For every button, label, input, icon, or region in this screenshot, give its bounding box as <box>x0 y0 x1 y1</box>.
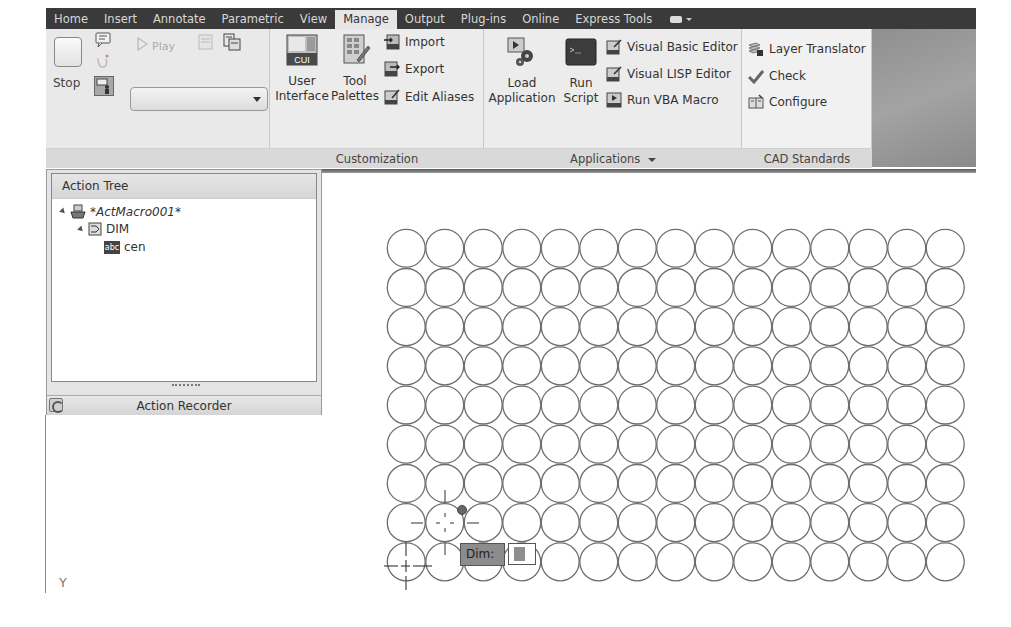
circle-entity[interactable] <box>811 425 849 463</box>
circle-entity[interactable] <box>926 465 964 503</box>
circle-entity[interactable] <box>772 425 810 463</box>
circle-entity[interactable] <box>503 347 541 385</box>
circle-entity[interactable] <box>695 269 733 307</box>
circle-entity[interactable] <box>926 229 964 267</box>
circle-entity[interactable] <box>618 543 656 581</box>
circle-entity[interactable] <box>580 543 618 581</box>
circle-entity[interactable] <box>580 386 618 424</box>
circle-entity[interactable] <box>849 347 887 385</box>
circle-entity[interactable] <box>541 386 579 424</box>
circle-entity[interactable] <box>426 425 464 463</box>
circle-entity[interactable] <box>811 386 849 424</box>
circle-entity[interactable] <box>541 425 579 463</box>
circle-entity[interactable] <box>926 386 964 424</box>
circle-entity[interactable] <box>541 347 579 385</box>
circle-entity[interactable] <box>695 465 733 503</box>
circle-entity[interactable] <box>772 229 810 267</box>
circle-entity[interactable] <box>541 504 579 542</box>
circle-entity[interactable] <box>695 308 733 346</box>
circle-entity[interactable] <box>464 347 502 385</box>
circle-entity[interactable] <box>657 425 695 463</box>
circle-entity[interactable] <box>618 465 656 503</box>
circle-entity[interactable] <box>541 465 579 503</box>
circle-entity[interactable] <box>695 229 733 267</box>
circle-entity[interactable] <box>657 308 695 346</box>
circle-entity[interactable] <box>618 386 656 424</box>
circle-entity[interactable] <box>387 347 425 385</box>
circle-entity[interactable] <box>849 269 887 307</box>
circle-entity[interactable] <box>849 465 887 503</box>
circle-entity[interactable] <box>811 347 849 385</box>
circle-entity[interactable] <box>849 504 887 542</box>
circle-entity[interactable] <box>464 229 502 267</box>
circle-entity[interactable] <box>657 386 695 424</box>
circle-entity[interactable] <box>426 386 464 424</box>
circle-entity[interactable] <box>503 504 541 542</box>
circle-entity[interactable] <box>426 229 464 267</box>
circle-entity[interactable] <box>503 386 541 424</box>
circle-entity[interactable] <box>849 543 887 581</box>
circle-entity[interactable] <box>541 269 579 307</box>
circle-entity[interactable] <box>695 347 733 385</box>
circle-entity[interactable] <box>772 543 810 581</box>
circle-entity[interactable] <box>503 269 541 307</box>
circle-entity[interactable] <box>926 504 964 542</box>
circle-entity[interactable] <box>387 465 425 503</box>
circle-entity[interactable] <box>618 425 656 463</box>
circle-entity[interactable] <box>464 269 502 307</box>
circle-entity[interactable] <box>888 269 926 307</box>
circle-entity[interactable] <box>387 425 425 463</box>
circle-entity[interactable] <box>772 347 810 385</box>
circle-entity[interactable] <box>464 465 502 503</box>
circle-entity[interactable] <box>772 465 810 503</box>
circle-entity[interactable] <box>695 504 733 542</box>
circle-entity[interactable] <box>926 425 964 463</box>
circle-entity[interactable] <box>695 386 733 424</box>
circle-entity[interactable] <box>657 269 695 307</box>
circle-entity[interactable] <box>849 386 887 424</box>
circle-entity[interactable] <box>695 543 733 581</box>
circle-entity[interactable] <box>657 465 695 503</box>
circle-entity[interactable] <box>618 347 656 385</box>
circle-entity[interactable] <box>618 308 656 346</box>
circle-entity[interactable] <box>464 386 502 424</box>
circle-entity[interactable] <box>503 465 541 503</box>
circle-entity[interactable] <box>580 229 618 267</box>
circle-entity[interactable] <box>387 386 425 424</box>
circle-entity[interactable] <box>503 425 541 463</box>
circle-entity[interactable] <box>657 504 695 542</box>
circle-entity[interactable] <box>926 347 964 385</box>
circle-entity[interactable] <box>426 308 464 346</box>
circle-entity[interactable] <box>618 229 656 267</box>
circle-entity[interactable] <box>888 308 926 346</box>
circle-entity[interactable] <box>734 386 772 424</box>
circle-entity[interactable] <box>618 504 656 542</box>
circle-entity[interactable] <box>849 425 887 463</box>
circle-entity[interactable] <box>734 269 772 307</box>
circle-entity[interactable] <box>426 269 464 307</box>
circle-entity[interactable] <box>503 308 541 346</box>
circle-entity[interactable] <box>734 465 772 503</box>
circle-entity[interactable] <box>888 504 926 542</box>
circle-entity[interactable] <box>503 229 541 267</box>
circle-entity[interactable] <box>580 269 618 307</box>
circle-entity[interactable] <box>772 308 810 346</box>
circle-entity[interactable] <box>849 308 887 346</box>
circle-entity[interactable] <box>811 269 849 307</box>
circle-entity[interactable] <box>541 229 579 267</box>
circle-entity[interactable] <box>387 269 425 307</box>
circle-entity[interactable] <box>464 425 502 463</box>
circle-entity[interactable] <box>734 229 772 267</box>
circle-entity[interactable] <box>734 504 772 542</box>
circle-entity[interactable] <box>387 229 425 267</box>
circle-entity[interactable] <box>695 425 733 463</box>
circle-entity[interactable] <box>811 229 849 267</box>
circle-entity[interactable] <box>772 504 810 542</box>
circle-entity[interactable] <box>811 308 849 346</box>
circle-entity[interactable] <box>734 425 772 463</box>
circle-entity[interactable] <box>811 543 849 581</box>
circle-entity[interactable] <box>926 269 964 307</box>
circle-entity[interactable] <box>734 308 772 346</box>
circle-entity[interactable] <box>734 347 772 385</box>
circle-entity[interactable] <box>657 543 695 581</box>
